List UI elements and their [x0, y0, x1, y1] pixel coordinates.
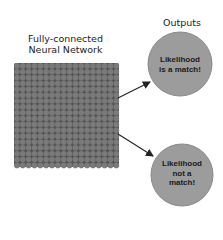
network-node — [67, 139, 73, 145]
network-node — [78, 98, 84, 104]
network-node — [26, 110, 32, 116]
network-node — [14, 139, 20, 145]
network-node — [49, 139, 55, 145]
network-node — [32, 63, 38, 69]
network-node — [32, 122, 38, 128]
network-node — [32, 145, 38, 151]
network-node — [20, 81, 26, 87]
network-node — [67, 98, 73, 104]
network-node — [114, 98, 120, 104]
network-node — [14, 127, 20, 133]
network-node — [78, 75, 84, 81]
network-node — [32, 69, 38, 75]
network-node — [43, 163, 49, 169]
output-label-match: Likelihood is a match! — [150, 55, 210, 74]
network-node — [61, 104, 67, 110]
network-node — [26, 116, 32, 122]
network-node — [114, 63, 120, 69]
network-node — [73, 92, 79, 98]
network-node — [38, 75, 44, 81]
network-node — [96, 122, 102, 128]
network-node — [108, 98, 114, 104]
network-node — [49, 104, 55, 110]
network-node — [78, 81, 84, 87]
network-node — [90, 163, 96, 169]
network-node — [43, 63, 49, 69]
network-node — [43, 139, 49, 145]
network-node — [26, 87, 32, 93]
network-node — [14, 69, 20, 75]
network-node — [90, 133, 96, 139]
network-node — [14, 151, 20, 157]
network-node — [14, 81, 20, 87]
network-node — [43, 98, 49, 104]
network-node — [108, 116, 114, 122]
network-node — [20, 87, 26, 93]
network-node — [26, 75, 32, 81]
network-node — [73, 116, 79, 122]
network-node — [26, 139, 32, 145]
network-node — [14, 157, 20, 163]
network-node — [55, 63, 61, 69]
network-node — [20, 133, 26, 139]
network-node — [114, 139, 120, 145]
network-node — [96, 69, 102, 75]
network-node — [61, 139, 67, 145]
network-node — [38, 98, 44, 104]
network-node — [38, 122, 44, 128]
network-node — [108, 69, 114, 75]
network-node — [96, 98, 102, 104]
network-node — [114, 163, 120, 169]
network-node — [38, 69, 44, 75]
network-node — [14, 87, 20, 93]
output-label-line: not a — [152, 169, 212, 179]
network-node — [78, 87, 84, 93]
network-node — [14, 163, 20, 169]
network-node — [49, 81, 55, 87]
network-node — [55, 133, 61, 139]
network-node — [78, 151, 84, 157]
network-node — [84, 87, 90, 93]
network-node — [90, 139, 96, 145]
output-label-no-match: Likelihood not a match! — [152, 159, 212, 188]
network-node — [32, 104, 38, 110]
network-node — [14, 145, 20, 151]
network-node — [20, 98, 26, 104]
network-node — [32, 151, 38, 157]
network-node — [114, 81, 120, 87]
network-node — [55, 104, 61, 110]
network-node — [20, 139, 26, 145]
network-node — [55, 98, 61, 104]
network-node — [84, 75, 90, 81]
network-node — [84, 163, 90, 169]
network-node — [78, 116, 84, 122]
network-node — [43, 69, 49, 75]
network-node — [61, 163, 67, 169]
network-node — [96, 145, 102, 151]
network-node — [38, 151, 44, 157]
network-node — [67, 69, 73, 75]
network-node — [26, 69, 32, 75]
network-node — [43, 122, 49, 128]
network-node — [96, 151, 102, 157]
network-node — [20, 92, 26, 98]
network-node — [49, 163, 55, 169]
network-node — [84, 81, 90, 87]
network-node — [55, 139, 61, 145]
network-node — [43, 81, 49, 87]
network-node — [96, 163, 102, 169]
network-node — [32, 116, 38, 122]
network-node — [32, 139, 38, 145]
network-node — [96, 116, 102, 122]
network-node — [32, 163, 38, 169]
network-node — [84, 122, 90, 128]
network-node — [108, 104, 114, 110]
network-node — [26, 98, 32, 104]
network-node — [108, 92, 114, 98]
network-node — [49, 87, 55, 93]
network-node — [43, 133, 49, 139]
network-node — [84, 157, 90, 163]
network-node — [55, 87, 61, 93]
network-node — [38, 145, 44, 151]
network-node — [32, 157, 38, 163]
